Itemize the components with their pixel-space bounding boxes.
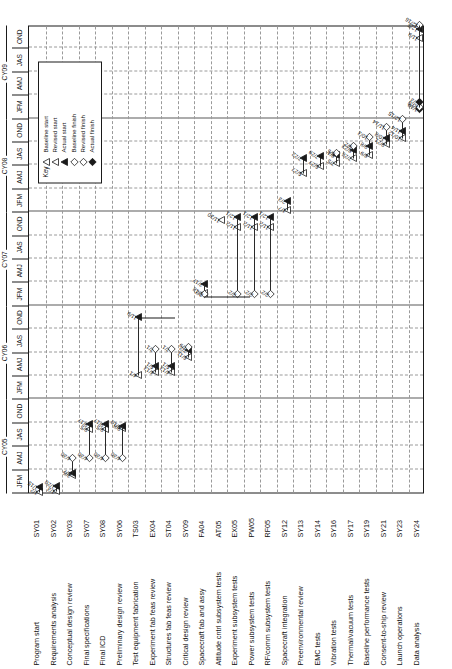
vertical-gridline [29,374,423,375]
task-code: SY23 [392,519,407,537]
horizontal-gridline [376,26,377,492]
milestone-connector [419,25,420,109]
task-code: SY17 [343,519,358,537]
task-code: SY16 [326,519,341,537]
legend-item-label: Baseline finish [71,113,77,152]
calendar-year-label: CY07 [2,212,12,306]
quarter-tick-label: JAS [12,329,28,352]
horizontal-gridline [161,26,162,492]
calendar-year-text: CY08 [1,155,8,176]
vertical-gridline [29,234,423,235]
quarter-tick-label: AMJ [12,259,28,282]
task-name: Preenvironmental review [293,586,308,665]
calendar-year-text: CY09 [1,62,8,83]
task-name: Final ICD [95,635,110,665]
task-name: Launch operations [392,606,407,665]
task-code: RF05 [260,519,275,537]
task-name: Structures fab feas review [161,582,176,665]
task-label-column: Program startSY01Requirements analysisSY… [0,493,452,669]
task-name: RF/comm subsystem tests [260,580,275,665]
task-name: Spacecraft fab and assy [194,588,209,665]
quarter-tick-label: OND [12,399,28,422]
legend-item-label: Actual start [61,122,67,152]
task-code: SY06 [112,519,127,537]
vertical-gridline [29,397,423,398]
calendar-year-label: CY05 [2,399,12,493]
horizontal-gridline [211,26,212,492]
legend-item: Actual start [61,122,67,152]
calendar-year-axis: CY05CY06CY07CY08CY09 [0,25,12,493]
task-code: EX05 [227,519,242,537]
horizontal-gridline [392,26,393,492]
quarter-tick-label: JFM [12,376,28,399]
legend-item-label: Revised finish [80,115,86,152]
task-code: SY13 [293,519,308,537]
legend-item: Actual finish [89,120,95,152]
horizontal-gridline [326,26,327,492]
legend-item-label: Baseline start [43,116,49,152]
horizontal-gridline [277,26,278,492]
task-code: SY24 [409,519,424,537]
task-name: Spacecraft integration [277,595,292,665]
task-code: TS03 [128,520,143,537]
legend-item-label: Revised start [52,117,58,152]
calendar-year-label: CY09 [2,25,12,119]
task-code: SY12 [277,519,292,537]
task-name: Experiment subsystem tests [227,575,242,665]
quarter-tick-label: OND [12,119,28,142]
task-code: SY08 [95,519,110,537]
vertical-gridline [29,257,423,258]
task-code: ST04 [161,520,176,537]
calendar-year-text: CY05 [1,436,8,457]
task-code: SY14 [310,519,325,537]
task-code: SY02 [46,519,61,537]
vertical-gridline [29,327,423,328]
vertical-gridline [29,351,423,352]
task-code: SY03 [62,519,77,537]
task-code: SY21 [376,519,391,537]
calendar-year-label: CY08 [2,119,12,213]
milestone-connector [237,218,238,294]
legend-filled-diamond-icon [88,157,98,166]
horizontal-gridline [293,26,294,492]
milestone-connector [138,317,139,375]
milestone-date-label: 12/15 [387,110,402,123]
task-code: FA04 [194,520,209,537]
quarter-tick-label: JFM [12,282,28,305]
quarter-tick-label: AMJ [12,72,28,95]
milestone-connector [270,218,271,294]
task-name: Data analysis [409,622,424,665]
calendar-year-text: CY07 [1,249,8,270]
vertical-gridline [29,46,423,47]
quarter-tick-label: JAS [12,236,28,259]
quarter-tick-label: JFM [12,189,28,212]
quarter-tick-label: AMJ [12,446,28,469]
gantt-chart-stage: Program startSY01Requirements analysisSY… [0,0,452,669]
legend-item: Baseline finish [71,113,77,152]
task-code: EX04 [145,519,160,537]
vertical-gridline [29,280,423,281]
horizontal-gridline [260,26,261,492]
horizontal-gridline [194,26,195,492]
horizontal-gridline [343,26,344,492]
task-code: SY07 [79,519,94,537]
quarter-tick-label: JAS [12,142,28,165]
legend-item: Baseline start [43,116,49,152]
task-name: Preliminary design review [112,583,127,665]
task-code: PW05 [244,517,259,537]
legend-item: Revised finish [80,115,86,152]
task-name: Baseline performance tests [359,578,374,665]
quarter-tick-label: JAS [12,48,28,71]
task-dependency-link [138,317,174,318]
quarter-tick-label: JFM [12,95,28,118]
task-code: SY09 [178,519,193,537]
task-name: Critical design review [178,597,193,665]
quarter-tick-label: OND [12,306,28,329]
horizontal-gridline [227,26,228,492]
quarter-tick-label: OND [12,25,28,48]
horizontal-gridline [244,26,245,492]
legend-item: Revised start [52,117,58,152]
task-code: SY19 [359,519,374,537]
vertical-gridline [29,187,423,188]
task-name: Consent-to-ship review [376,591,391,665]
